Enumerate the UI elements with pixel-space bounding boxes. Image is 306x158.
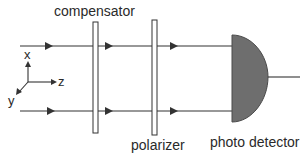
y-axis	[19, 82, 28, 92]
lower-beam-arrow-2	[105, 107, 113, 115]
upper-beam-arrow-3	[170, 42, 178, 50]
upper-beam-arrow-2	[105, 42, 113, 50]
z-axis-label: z	[58, 75, 65, 88]
photo-detector-label: photo detector	[210, 135, 300, 149]
z-axis-arrow-icon	[51, 79, 57, 85]
lower-beam-arrow-1	[47, 107, 55, 115]
polarizer-plate	[152, 20, 157, 135]
photo-detector	[232, 35, 268, 122]
x-axis-label: x	[24, 48, 31, 61]
compensator-label: compensator	[54, 4, 135, 18]
optical-setup-diagram: compensator polarizer photo detector x z…	[0, 0, 306, 158]
compensator-plate	[93, 22, 98, 133]
upper-beam-arrow-1	[45, 42, 53, 50]
lower-beam-arrow-3	[170, 107, 178, 115]
y-axis-label: y	[8, 94, 15, 107]
polarizer-label: polarizer	[131, 138, 185, 152]
